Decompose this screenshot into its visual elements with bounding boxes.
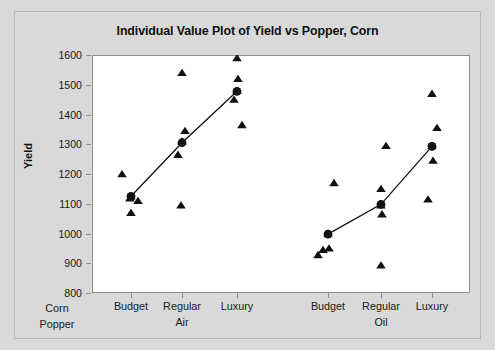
x-tick-mark — [131, 293, 132, 298]
y-tick-mark — [86, 85, 91, 86]
chart-figure: Individual Value Plot of Yield vs Popper… — [0, 0, 495, 350]
plot-area — [92, 55, 470, 293]
y-tick-mark — [86, 263, 91, 264]
y-tick-label: 1500 — [40, 80, 82, 90]
x-tick-label-luxury-oil: Luxury — [394, 300, 470, 312]
x-tick-mark — [381, 293, 382, 298]
y-tick-mark — [86, 144, 91, 145]
y-axis-title: Yield — [22, 126, 34, 186]
y-tick-mark — [86, 174, 91, 175]
y-tick-label: 800 — [40, 288, 82, 298]
outer-group-label-oil: Oil — [321, 316, 441, 328]
outer-factor-label-line2: Popper — [22, 316, 92, 332]
y-tick-label: 1100 — [40, 199, 82, 209]
y-tick-label: 900 — [40, 258, 82, 268]
y-axis-tick-labels: 8009001000110012001300140015001600 — [38, 0, 82, 350]
y-tick-label: 1300 — [40, 139, 82, 149]
y-tick-mark — [86, 234, 91, 235]
outer-factor-label-line1: Corn — [22, 300, 92, 316]
x-tick-mark — [237, 293, 238, 298]
y-tick-label: 1600 — [40, 50, 82, 60]
y-tick-mark — [86, 55, 91, 56]
x-tick-label-luxury-air: Luxury — [199, 300, 275, 312]
y-tick-mark — [86, 293, 91, 294]
y-tick-label: 1400 — [40, 110, 82, 120]
x-tick-mark — [182, 293, 183, 298]
y-tick-label: 1000 — [40, 229, 82, 239]
y-tick-mark — [86, 115, 91, 116]
y-tick-label: 1200 — [40, 169, 82, 179]
x-tick-mark — [432, 293, 433, 298]
x-tick-mark — [328, 293, 329, 298]
y-tick-mark — [86, 204, 91, 205]
outer-group-label-air: Air — [122, 316, 242, 328]
outer-factor-label: Corn Popper — [22, 300, 92, 332]
